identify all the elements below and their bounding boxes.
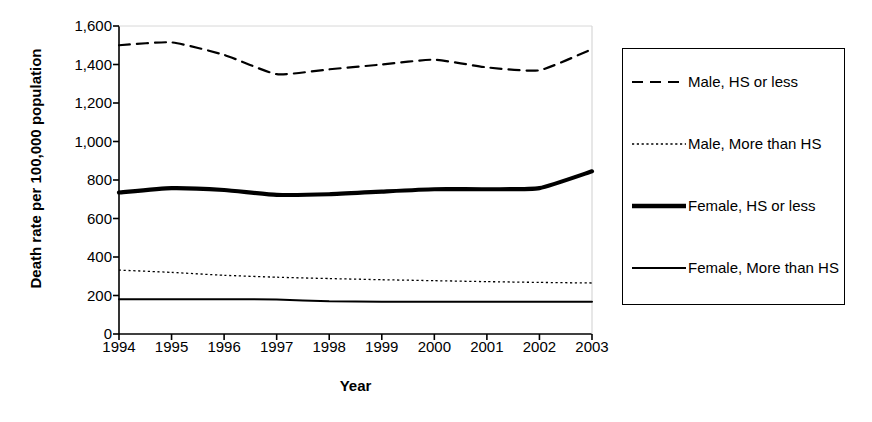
legend-item[interactable]: Male, HS or less — [631, 73, 839, 91]
legend-item-label: Male, HS or less — [687, 73, 798, 90]
x-tick-label: 1995 — [142, 339, 202, 354]
series-line — [119, 299, 592, 302]
series-line — [119, 270, 592, 283]
series-line — [119, 42, 592, 74]
legend-item[interactable]: Male, More than HS — [631, 135, 839, 153]
legend-item[interactable]: Female, HS or less — [631, 197, 839, 215]
x-tick-label: 2000 — [404, 339, 464, 354]
legend-line-swatch — [631, 197, 687, 215]
legend-line-swatch — [631, 73, 687, 91]
chart-legend: Male, HS or lessMale, More than HSFemale… — [622, 48, 845, 305]
legend-item[interactable]: Female, More than HS — [631, 259, 839, 277]
series-line — [119, 171, 592, 195]
x-tick-label: 2002 — [509, 339, 569, 354]
x-axis-title: Year — [119, 377, 592, 394]
x-tick-label: 1999 — [352, 339, 412, 354]
x-tick-label: 1997 — [247, 339, 307, 354]
legend-line-swatch — [631, 259, 687, 277]
x-tick-label: 2001 — [457, 339, 517, 354]
legend-item-label: Male, More than HS — [687, 135, 821, 152]
legend-item-label: Female, HS or less — [687, 197, 816, 214]
chart-figure: Death rate per 100,000 population 020040… — [0, 0, 872, 422]
x-tick-label: 2003 — [562, 339, 622, 354]
x-tick-label: 1998 — [299, 339, 359, 354]
legend-item-label: Female, More than HS — [687, 259, 839, 276]
x-tick-label: 1996 — [194, 339, 254, 354]
x-tick-label: 1994 — [89, 339, 149, 354]
legend-line-swatch — [631, 135, 687, 153]
